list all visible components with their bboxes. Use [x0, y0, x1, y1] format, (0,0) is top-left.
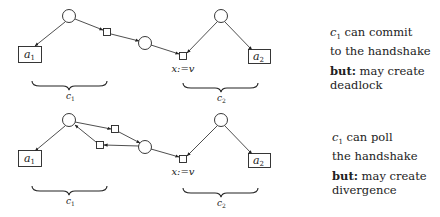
- transition-square-lower: [97, 142, 104, 149]
- edge-upper-square-to-mid: [119, 132, 140, 143]
- state-circle-mid: [139, 141, 152, 154]
- brace-c2-label: c2: [217, 93, 226, 104]
- assign-square: [180, 53, 187, 60]
- edge-mid-to-assign: [151, 149, 179, 157]
- state-circle-c1: [63, 10, 76, 23]
- poll-note-line2: the handshake: [332, 149, 427, 163]
- edge-c2-to-a2: [225, 22, 252, 50]
- edge-mid-to-lower-square: [104, 145, 139, 146]
- commit-note-line1: c1 can commit: [330, 25, 431, 44]
- assign-label: x:=v: [171, 63, 194, 74]
- poll-note: c1 can poll the handshake but: may creat…: [332, 130, 427, 197]
- poll-diagram: a1 a2 x:=v c1 c2: [19, 114, 271, 209]
- edge-mid-to-assign: [151, 45, 179, 54]
- poll-note-line1: c1 can poll: [332, 130, 427, 149]
- brace-c2: [183, 83, 258, 92]
- brace-c1: [32, 81, 107, 90]
- brace-c1-label: c1: [66, 196, 75, 207]
- edge-c1-to-a1: [35, 126, 65, 151]
- edge-c1-to-square: [75, 19, 103, 30]
- transition-square-upper: [112, 126, 119, 133]
- transition-square: [104, 29, 111, 36]
- poll-note-line3: but: may create: [332, 169, 427, 183]
- state-circle-c1: [63, 114, 76, 127]
- commit-note-line4: deadlock: [330, 78, 431, 92]
- brace-c2-label: c2: [217, 198, 226, 209]
- edge-lower-square-to-c1: [75, 125, 96, 142]
- commit-diagram: a1 a2 x:=v c1 c2: [19, 10, 271, 104]
- assign-square: [180, 156, 187, 163]
- edge-c2-to-assign: [187, 126, 217, 156]
- edge-square-to-mid: [111, 34, 139, 41]
- commit-note-line3: but: may create: [330, 64, 431, 78]
- state-circle-c2: [215, 114, 228, 127]
- edge-c2-to-a2: [225, 126, 252, 154]
- poll-note-line4: divergence: [332, 183, 427, 197]
- commit-note-line2: to the handshake: [330, 44, 431, 58]
- edge-c1-to-a1: [35, 22, 65, 46]
- state-circle-c2: [215, 10, 228, 23]
- edge-c1-to-upper-square: [75, 122, 111, 129]
- brace-c1: [32, 186, 107, 195]
- state-circle-mid: [139, 37, 152, 50]
- commit-note: c1 can commit to the handshake but: may …: [330, 25, 431, 92]
- brace-c2: [183, 188, 258, 197]
- edge-c2-to-assign: [187, 22, 217, 53]
- brace-c1-label: c1: [66, 91, 75, 102]
- assign-label: x:=v: [171, 166, 194, 177]
